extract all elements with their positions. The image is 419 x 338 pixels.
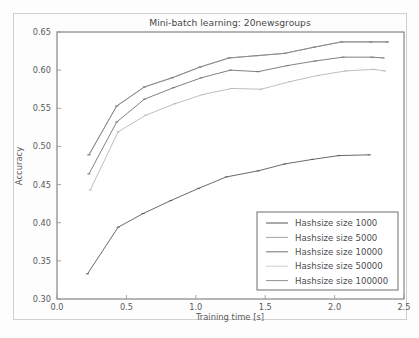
chart-title: Mini-batch learning: 20newsgroups — [149, 17, 311, 28]
y-tick-label: 0.65 — [33, 27, 51, 37]
x-tick-label: 2.5 — [397, 302, 410, 312]
x-tick-label: 1.0 — [189, 302, 202, 312]
legend-item-label[interactable]: Hashsize size 100000 — [295, 276, 388, 286]
y-tick-label: 0.35 — [33, 256, 51, 266]
chart-legend[interactable]: Hashsize size 1000Hashsize size 5000Hash… — [257, 212, 398, 290]
y-tick-label: 0.50 — [33, 141, 51, 151]
legend-item-label[interactable]: Hashsize size 5000 — [295, 233, 377, 243]
x-axis-label: Training time [s] — [195, 312, 264, 322]
y-tick-label: 0.60 — [33, 65, 51, 75]
y-axis-label: Accuracy — [14, 147, 24, 185]
y-tick-label: 0.45 — [33, 180, 51, 190]
figure-canvas: 0.300.350.400.450.500.550.600.65 0.00.51… — [0, 0, 419, 338]
x-tick-label: 0.5 — [120, 302, 133, 312]
legend-item-label[interactable]: Hashsize size 10000 — [295, 247, 383, 257]
x-tick-label: 0.0 — [50, 302, 63, 312]
y-tick-label: 0.40 — [33, 218, 51, 228]
x-tick-label: 2.0 — [328, 302, 341, 312]
legend-item-label[interactable]: Hashsize size 50000 — [295, 261, 383, 271]
y-tick-label: 0.30 — [33, 294, 51, 304]
x-tick-label: 1.5 — [259, 302, 272, 312]
y-tick-label: 0.55 — [33, 103, 51, 113]
legend-item-label[interactable]: Hashsize size 1000 — [295, 218, 377, 228]
chart-svg: 0.300.350.400.450.500.550.600.65 0.00.51… — [0, 0, 419, 338]
